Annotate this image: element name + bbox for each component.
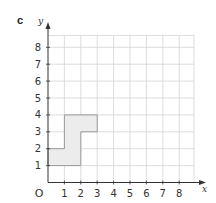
y-tick-label: 2	[35, 143, 41, 154]
x-axis-label: x	[202, 184, 207, 194]
x-tick-label: 8	[176, 188, 182, 199]
origin-label: O	[35, 187, 44, 200]
y-axis-label: y	[37, 16, 44, 26]
x-tick-label: 1	[61, 188, 67, 199]
shaded-shape	[48, 115, 97, 166]
y-tick-label: 6	[35, 76, 41, 87]
x-tick-label: 3	[94, 188, 100, 199]
x-tick-label: 5	[127, 188, 133, 199]
coordinate-grid: 1234567812345678Oxy	[0, 0, 216, 203]
x-tick-label: 6	[143, 188, 149, 199]
x-tick-label: 7	[160, 188, 166, 199]
x-tick-label: 2	[78, 188, 84, 199]
y-tick-label: 5	[35, 93, 41, 104]
y-tick-label: 3	[35, 126, 41, 137]
y-tick-label: 7	[35, 59, 41, 70]
y-tick-label: 8	[35, 42, 41, 53]
y-axis-arrow-icon	[46, 22, 51, 29]
x-tick-label: 4	[110, 188, 116, 199]
y-tick-label: 1	[35, 160, 41, 171]
y-tick-label: 4	[35, 109, 41, 120]
